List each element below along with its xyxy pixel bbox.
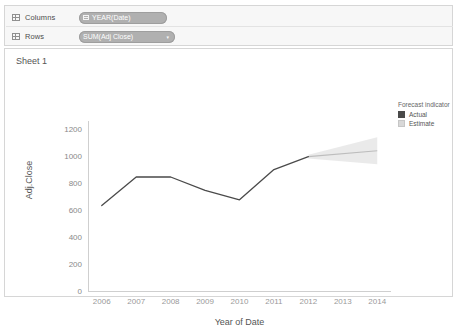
line-chart-svg [88,121,391,291]
legend-item-actual[interactable]: Actual [398,111,458,118]
discrete-field-icon [83,15,89,21]
columns-shelf-icon [12,14,20,22]
columns-shelf-label: Columns [25,13,79,22]
page-title: Sheet 1 [16,56,47,66]
y-tick-600: 600 [36,206,82,215]
shelf-panel: Columns YEAR(Date) Rows SUM(Adj Close) ▾ [4,5,453,46]
y-tick-1000: 1000 [36,152,82,161]
rows-shelf-icon [12,33,20,41]
legend-item-label: Estimate [409,120,434,127]
legend-item-label: Actual [409,111,427,118]
x-tick-2014: 2014 [368,297,386,306]
y-axis-tick-labels: 020040060080010001200 [36,121,82,291]
y-tick-1200: 1200 [36,125,82,134]
legend-swatch-icon [398,120,405,127]
x-axis-title: Year of Date [88,317,391,327]
y-tick-0: 0 [36,287,82,296]
plot-area [88,121,391,291]
x-tick-2010: 2010 [231,297,249,306]
legend-swatch-icon [398,111,405,118]
legend: Forecast indicator ActualEstimate [398,101,458,129]
pill-sum-adj-close-label: SUM(Adj Close) [83,31,133,43]
chevron-down-icon[interactable]: ▾ [152,31,169,43]
pill-sum-adj-close[interactable]: SUM(Adj Close) ▾ [79,31,175,43]
x-axis-line [88,291,391,292]
x-tick-2008: 2008 [162,297,180,306]
x-tick-2006: 2006 [93,297,111,306]
columns-shelf[interactable]: Columns YEAR(Date) [5,9,452,26]
x-tick-2012: 2012 [299,297,317,306]
y-tick-800: 800 [36,179,82,188]
x-tick-2011: 2011 [265,297,282,306]
forecast-estimate-band [308,137,377,164]
rows-shelf-label: Rows [25,32,79,41]
pill-year-date-label: YEAR(Date) [92,12,131,24]
x-axis-tick-labels: 200620072008200920102011201220132014 [88,297,391,311]
rows-shelf[interactable]: Rows SUM(Adj Close) ▾ [5,28,452,45]
y-axis-title: Adj.Close [24,161,34,200]
viz-card: Sheet 1 Adj.Close 020040060080010001200 … [4,48,453,297]
y-tick-400: 400 [36,233,82,242]
x-tick-2009: 2009 [196,297,214,306]
y-tick-200: 200 [36,260,82,269]
x-tick-2013: 2013 [334,297,352,306]
legend-title: Forecast indicator [398,101,458,108]
pill-year-date[interactable]: YEAR(Date) [79,12,167,24]
shelf-divider [6,26,453,27]
x-tick-2007: 2007 [127,297,145,306]
actual-series-line[interactable] [102,157,309,206]
legend-items: ActualEstimate [398,111,458,127]
legend-item-estimate[interactable]: Estimate [398,120,458,127]
